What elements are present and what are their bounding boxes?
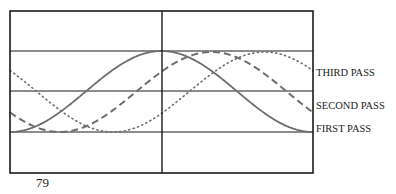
pass-diagram xyxy=(0,0,396,194)
label-first-pass: FIRST PASS xyxy=(316,123,371,134)
label-second-pass: SECOND PASS xyxy=(316,100,385,111)
label-third-pass: THIRD PASS xyxy=(316,67,375,78)
page-number: 79 xyxy=(36,175,49,191)
